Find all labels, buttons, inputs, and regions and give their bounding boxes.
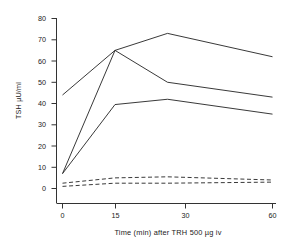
y-tick-label-20: 20: [22, 142, 46, 151]
series-line-dashed-2: [63, 182, 273, 186]
x-tick-label-0: 0: [53, 211, 73, 220]
series-line-solid-1: [63, 33, 273, 95]
x-tick-label-30: 30: [176, 211, 196, 220]
y-tick-label-30: 30: [22, 120, 46, 129]
x-tick-label-15: 15: [106, 211, 126, 220]
y-tick-label-70: 70: [22, 35, 46, 44]
y-tick-label-0: 0: [22, 184, 46, 193]
data-series-layer: [63, 33, 273, 186]
x-axis-ticks: [63, 204, 273, 209]
y-tick-label-60: 60: [22, 57, 46, 66]
y-tick-label-80: 80: [22, 14, 46, 23]
y-tick-label-40: 40: [22, 99, 46, 108]
x-tick-label-60: 60: [263, 211, 283, 220]
x-axis-title: Time (min) after TRH 500 µg iv: [58, 228, 278, 237]
y-tick-label-50: 50: [22, 78, 46, 87]
series-line-solid-2: [63, 50, 273, 173]
series-line-solid-3: [63, 99, 273, 173]
y-tick-label-10: 10: [22, 163, 46, 172]
chart-container: TSH µU/ml Time (min) after TRH 500 µg iv…: [0, 0, 294, 244]
y-axis-ticks: [52, 19, 57, 189]
